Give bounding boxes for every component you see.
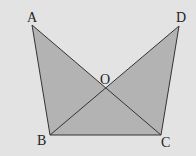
label-b: B bbox=[37, 133, 46, 148]
label-o: O bbox=[100, 72, 110, 87]
label-a: A bbox=[27, 10, 38, 25]
label-c: C bbox=[161, 135, 170, 150]
label-d: D bbox=[176, 10, 186, 25]
geometry-diagram: A D O B C bbox=[0, 0, 196, 156]
